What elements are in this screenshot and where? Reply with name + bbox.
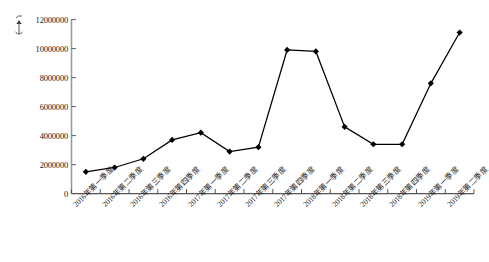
line-chart: 0200000040000006000000800000010000000120… <box>0 0 478 262</box>
x-axis-tick-labels: 2016年第一季度2016年第二季度2016年第三季度2016年第四季度2017… <box>0 0 478 262</box>
